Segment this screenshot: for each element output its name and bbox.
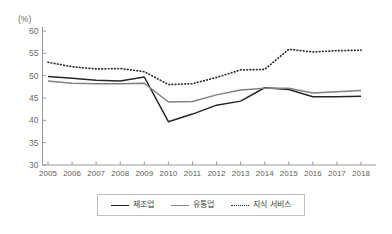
legend-item-label: 유통업: [193, 201, 214, 209]
y-axis-tick-label: 60: [29, 26, 39, 36]
x-axis-tick-label: 2016: [304, 169, 322, 178]
line-chart: (%) 30354045505560 200520062007200820092…: [0, 0, 392, 234]
x-axis-tick-label: 2013: [232, 169, 250, 178]
x-axis-tick-label: 2018: [352, 169, 370, 178]
x-axis-tick-label: 2017: [328, 169, 346, 178]
legend-swatch-solid-icon: [171, 205, 189, 206]
legend-swatch-solid-icon: [111, 205, 129, 206]
data-series-line: [48, 81, 361, 102]
x-axis-tick-label: 2007: [87, 169, 105, 178]
x-axis-tick-label: 2011: [184, 169, 202, 178]
x-axis-tick-label: 2005: [39, 169, 57, 178]
y-axis-tick-label: 50: [29, 71, 39, 81]
x-axis-tick-label: 2010: [159, 169, 177, 178]
legend-item-label: 제조업: [133, 201, 154, 209]
x-axis: 2005200620072008200920102011201220132014…: [39, 162, 376, 179]
legend-item[interactable]: 지식 서비스: [231, 201, 290, 209]
x-axis-tick-label: 2014: [256, 169, 274, 178]
x-axis-tick-label: 2006: [63, 169, 81, 178]
y-axis-tick-label: 35: [29, 138, 39, 148]
y-axis-tick-label: 45: [29, 93, 39, 103]
x-axis-tick-label: 2009: [135, 169, 153, 178]
legend-item[interactable]: 제조업: [111, 201, 154, 209]
y-axis-tick-label: 55: [29, 48, 39, 58]
legend-item[interactable]: 유통업: [171, 201, 214, 209]
legend-item-label: 지식 서비스: [253, 201, 290, 209]
legend-swatch-dotted-icon: [231, 205, 249, 206]
data-series-group: [48, 49, 361, 121]
x-axis-tick-label: 2012: [208, 169, 226, 178]
y-axis-tick-label: 30: [29, 160, 39, 170]
y-axis-tick-label: 40: [29, 115, 39, 125]
x-axis-tick-label: 2008: [111, 169, 129, 178]
x-axis-tick-label: 2015: [280, 169, 298, 178]
y-axis: 30354045505560: [29, 26, 46, 170]
chart-legend: 제조업유통업지식 서비스: [97, 194, 305, 216]
